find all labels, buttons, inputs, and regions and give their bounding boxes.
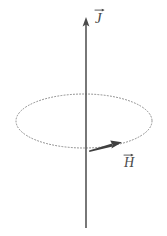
label-magnetic-field: H [124, 152, 134, 170]
diagram-canvas [0, 0, 167, 236]
field-loop-ellipse [16, 94, 152, 148]
label-current-density-text: J [95, 10, 102, 26]
label-current-density: J [95, 7, 102, 26]
label-magnetic-field-text: H [124, 155, 134, 170]
vector-field-diagram: J H [0, 0, 167, 236]
